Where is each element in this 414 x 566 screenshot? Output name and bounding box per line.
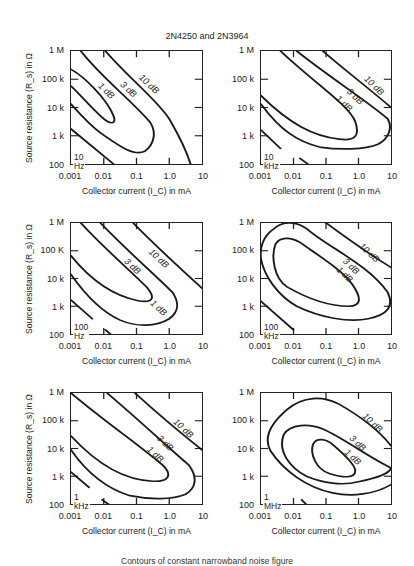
frequency-label: 1 MHz xyxy=(263,493,282,511)
plot-area: 1 dB3 dB10 dB xyxy=(70,392,203,505)
x-tick-label: 1.0 xyxy=(342,341,376,351)
frequency-label: 10 Hz xyxy=(73,153,85,171)
y-tick-label: 100 xyxy=(218,500,254,510)
contour-plot: 1 dB3 dB10 dB xyxy=(71,393,202,504)
contour-label: 10 dB xyxy=(360,412,385,434)
contour-label: 10 dB xyxy=(137,73,162,96)
plot-area: 1 dB3 dB10 dB xyxy=(70,50,203,165)
contour-plot: 1 dB3 dB10 dB xyxy=(71,51,202,164)
x-tick-label: 1.0 xyxy=(153,341,187,351)
x-tick-label: 1.0 xyxy=(153,171,187,181)
x-tick-label: 10 xyxy=(375,341,409,351)
y-tick-label: 100 k xyxy=(218,415,254,425)
x-tick-label: 0.1 xyxy=(309,341,343,351)
y-tick-label: 1 M xyxy=(218,45,254,55)
plot-area: 3 dB1 dB10 dB xyxy=(70,222,203,335)
contour-line xyxy=(261,223,390,320)
x-tick-label: 0.01 xyxy=(86,511,120,521)
contour-line xyxy=(324,222,391,268)
frequency-label: 1 kHz xyxy=(73,493,90,511)
x-tick-label: 0.01 xyxy=(86,341,120,351)
y-axis-label: Source resistance (R_s) in Ω xyxy=(24,38,34,178)
frequency-label: 100 Hz xyxy=(73,323,89,341)
frequency-label: 10 kHz xyxy=(263,153,280,171)
contour-label: 1 dB xyxy=(148,299,170,318)
x-tick-label: 0.001 xyxy=(53,511,87,521)
x-tick-label: 0.001 xyxy=(243,511,277,521)
x-tick-label: 0.01 xyxy=(276,171,310,181)
x-tick-label: 0.001 xyxy=(53,171,87,181)
y-tick-label: 100 xyxy=(218,160,254,170)
x-tick-label: 0.001 xyxy=(243,341,277,351)
contour-plot: 3 dB1 dB10 dB xyxy=(71,223,202,334)
y-tick-label: 1 k xyxy=(218,472,254,482)
noise-limit-line xyxy=(302,500,312,510)
frequency-label: 100 kHz xyxy=(263,323,280,341)
y-tick-label: 1 M xyxy=(218,387,254,397)
x-tick-label: 10 xyxy=(375,171,409,181)
x-tick-label: 1.0 xyxy=(342,511,376,521)
contour-label: 10 dB xyxy=(146,247,171,269)
figure-title: 2N4250 and 2N3964 xyxy=(0,31,414,41)
x-tick-label: 0.1 xyxy=(120,511,154,521)
x-tick-label: 0.01 xyxy=(276,341,310,351)
x-tick-label: 10 xyxy=(186,341,220,351)
x-axis-label: Collector current (I_C) in mA xyxy=(57,356,217,366)
x-tick-label: 0.1 xyxy=(120,171,154,181)
plot-area: 1 dB3 dB10 dB xyxy=(260,392,392,505)
x-tick-label: 0.01 xyxy=(276,511,310,521)
noise-limit-line xyxy=(71,300,92,319)
y-tick-label: 1 k xyxy=(218,302,254,312)
contour-plot: 1 dB3 dB10 dB xyxy=(261,393,391,504)
contour-plot: 1 dB3 dB10 dB xyxy=(261,51,391,164)
x-tick-label: 1.0 xyxy=(153,511,187,521)
x-tick-label: 0.001 xyxy=(243,171,277,181)
x-tick-label: 10 xyxy=(186,511,220,521)
contour-line xyxy=(261,51,390,149)
noise-limit-line xyxy=(71,472,89,487)
x-tick-label: 0.1 xyxy=(309,171,343,181)
x-axis-label: Collector current (I_C) in mA xyxy=(57,526,217,536)
x-axis-label: Collector current (I_C) in mA xyxy=(246,526,406,536)
y-tick-label: 10 k xyxy=(218,103,254,113)
x-tick-label: 0.1 xyxy=(309,511,343,521)
contour-line xyxy=(133,223,202,288)
y-tick-label: 10 k xyxy=(218,444,254,454)
contour-line xyxy=(71,51,154,153)
x-tick-label: 10 xyxy=(186,171,220,181)
y-tick-label: 100 xyxy=(218,330,254,340)
y-tick-label: 100 k xyxy=(218,74,254,84)
x-tick-label: 10 xyxy=(375,511,409,521)
plot-area: 1 dB3 dB10 dB xyxy=(260,50,392,165)
noise-limit-line xyxy=(261,130,281,148)
x-axis-label: Collector current (I_C) in mA xyxy=(246,356,406,366)
y-tick-label: 1 k xyxy=(218,131,254,141)
x-tick-label: 1.0 xyxy=(342,171,376,181)
x-tick-label: 0.01 xyxy=(86,171,120,181)
x-tick-label: 0.001 xyxy=(53,341,87,351)
y-axis-label: Source resistance (R_s) in Ω xyxy=(24,379,34,519)
x-axis-label: Collector current (I_C) in mA xyxy=(246,186,406,196)
contour-label: 10 dB xyxy=(357,242,382,264)
contour-line xyxy=(268,398,391,494)
y-tick-label: 1 M xyxy=(218,217,254,227)
plot-area: 1 dB3 dB10 dB xyxy=(260,222,392,335)
figure-caption: Contours of constant narrowband noise fi… xyxy=(0,556,414,566)
noise-limit-line xyxy=(300,158,310,165)
y-axis-label: Source resistance (R_s) in Ω xyxy=(24,209,34,349)
contour-plot: 1 dB3 dB10 dB xyxy=(261,223,391,334)
x-axis-label: Collector current (I_C) in mA xyxy=(57,186,217,196)
contour-line xyxy=(105,51,190,164)
y-tick-label: 10 k xyxy=(218,274,254,284)
x-tick-label: 0.1 xyxy=(120,341,154,351)
noise-limit-line xyxy=(105,330,112,336)
contour-label: 1 dB xyxy=(96,81,117,100)
y-tick-label: 100 k xyxy=(218,245,254,255)
